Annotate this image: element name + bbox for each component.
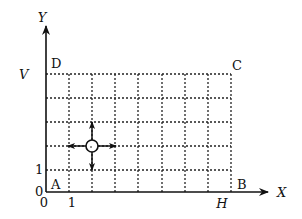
y-axis-label: Y (38, 10, 48, 25)
corner-a-label: A (50, 177, 61, 192)
v-extent-label: V (19, 67, 30, 82)
robot-icon (68, 122, 116, 170)
x-tick-1: 1 (68, 195, 76, 210)
corner-c-label: C (232, 58, 242, 73)
y-tick-1: 1 (35, 162, 43, 177)
grid-diagram: Y X V H 1 0 0 1 A B C D (0, 0, 302, 219)
dotted-grid (46, 74, 231, 192)
corner-b-label: B (237, 177, 247, 192)
corner-d-label: D (51, 56, 61, 71)
x-tick-0: 0 (40, 195, 48, 210)
h-extent-label: H (215, 196, 228, 211)
x-axis-label: X (276, 185, 287, 200)
